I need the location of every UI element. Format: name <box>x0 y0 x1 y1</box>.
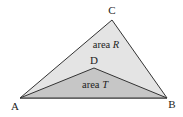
vertex-label-c: C <box>108 4 115 16</box>
triangle-diagram: C D A B area R area T <box>0 0 183 117</box>
area-r-label: area R <box>93 39 120 50</box>
diagram-canvas: C D A B area R area T <box>0 0 183 117</box>
area-t-prefix: area <box>82 79 102 90</box>
area-t-label: area T <box>82 79 109 90</box>
vertex-label-b: B <box>168 98 175 110</box>
vertex-label-a: A <box>11 100 19 112</box>
vertex-label-d: D <box>90 54 98 66</box>
area-r-prefix: area <box>93 39 113 50</box>
area-r-variable: R <box>112 39 120 50</box>
